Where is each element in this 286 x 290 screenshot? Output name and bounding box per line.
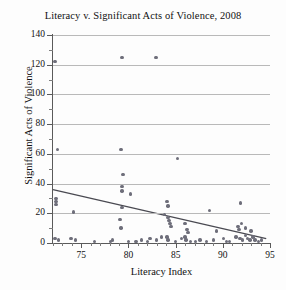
gridline <box>53 213 270 214</box>
x-axis-tick-label: 95 <box>255 250 285 260</box>
x-axis-minor-tick <box>119 243 120 246</box>
data-point <box>212 238 215 241</box>
x-axis-tick-label: 90 <box>208 250 238 260</box>
data-point <box>166 204 169 207</box>
data-point <box>119 148 122 151</box>
x-axis-tick <box>81 243 82 248</box>
data-point <box>248 238 251 241</box>
x-axis-minor-tick <box>232 243 233 246</box>
x-axis-tick <box>223 243 224 248</box>
data-point <box>165 200 168 203</box>
y-axis-minor-tick <box>49 109 53 110</box>
data-point <box>148 237 151 240</box>
y-axis-tick-label: 40 <box>0 178 45 188</box>
data-point <box>120 185 123 188</box>
x-axis-minor-tick <box>110 243 111 246</box>
y-axis-tick-label: 80 <box>0 118 45 128</box>
x-axis-minor-tick <box>242 243 243 246</box>
data-point <box>154 56 157 59</box>
data-point <box>166 238 169 241</box>
gridline <box>53 94 270 95</box>
data-point <box>120 56 123 59</box>
y-axis-minor-tick <box>49 228 53 229</box>
y-axis-tick-label: 0 <box>0 237 45 247</box>
y-axis-minor-tick <box>49 139 53 140</box>
scatter-chart: Literacy v. Significant Acts of Violence… <box>0 0 286 290</box>
x-axis-minor-tick <box>204 243 205 246</box>
y-axis-tick <box>47 35 53 36</box>
gridline <box>53 35 270 36</box>
y-axis-tick <box>47 213 53 214</box>
x-axis-minor-tick <box>91 243 92 246</box>
y-axis-tick <box>47 184 53 185</box>
x-axis-tick-label: 75 <box>66 250 96 260</box>
y-axis-tick <box>47 94 53 95</box>
x-axis-minor-tick <box>213 243 214 246</box>
y-axis-tick-label: 100 <box>0 88 45 98</box>
x-axis-tick-label: 85 <box>161 250 191 260</box>
x-axis-tick <box>128 243 129 248</box>
data-point <box>120 189 123 192</box>
gridline <box>53 154 270 155</box>
x-axis-minor-tick <box>195 243 196 246</box>
trendline <box>53 35 270 243</box>
data-point <box>129 192 132 195</box>
data-point <box>119 226 122 229</box>
x-axis-minor-tick <box>72 243 73 246</box>
x-axis-tick-label: 80 <box>113 250 143 260</box>
data-point <box>215 229 218 232</box>
y-axis-minor-tick <box>49 50 53 51</box>
y-axis-tick <box>47 65 53 66</box>
data-point <box>69 237 72 240</box>
data-point <box>54 203 57 206</box>
data-point <box>198 238 201 241</box>
y-axis-tick-label: 60 <box>0 148 45 158</box>
data-point <box>111 238 114 241</box>
data-point <box>169 225 172 228</box>
y-axis-tick-label: 20 <box>0 207 45 217</box>
x-axis-tick <box>176 243 177 248</box>
y-axis-tick <box>47 124 53 125</box>
x-axis-minor-tick <box>261 243 262 246</box>
y-axis-tick-label: 120 <box>0 59 45 69</box>
data-point <box>121 173 124 176</box>
data-point <box>120 206 123 209</box>
data-point <box>184 238 187 241</box>
data-point <box>249 229 252 232</box>
data-point <box>241 238 244 241</box>
x-axis-tick <box>270 243 271 248</box>
plot-area <box>53 35 270 243</box>
x-axis-line <box>52 243 271 244</box>
y-axis-minor-tick <box>49 80 53 81</box>
x-axis-minor-tick <box>138 243 139 246</box>
x-axis-minor-tick <box>157 243 158 246</box>
x-axis-minor-tick <box>147 243 148 246</box>
data-point <box>244 226 247 229</box>
x-axis-minor-tick <box>100 243 101 246</box>
gridline <box>53 124 270 125</box>
chart-title: Literacy v. Significant Acts of Violence… <box>0 10 286 21</box>
gridline <box>53 65 270 66</box>
data-point <box>260 238 263 241</box>
x-axis-minor-tick <box>53 243 54 246</box>
x-axis-minor-tick <box>62 243 63 246</box>
data-point <box>118 218 121 221</box>
data-point <box>160 235 163 238</box>
x-axis-minor-tick <box>185 243 186 246</box>
y-axis-tick-label: 140 <box>0 29 45 39</box>
y-axis-tick <box>47 154 53 155</box>
y-axis-minor-tick <box>49 169 53 170</box>
x-axis-minor-tick <box>251 243 252 246</box>
x-axis-label: Literacy Index <box>53 266 270 277</box>
data-point <box>186 231 189 234</box>
data-point <box>237 228 240 231</box>
x-axis-minor-tick <box>166 243 167 246</box>
gridline <box>53 184 270 185</box>
y-axis-minor-tick <box>49 198 53 199</box>
